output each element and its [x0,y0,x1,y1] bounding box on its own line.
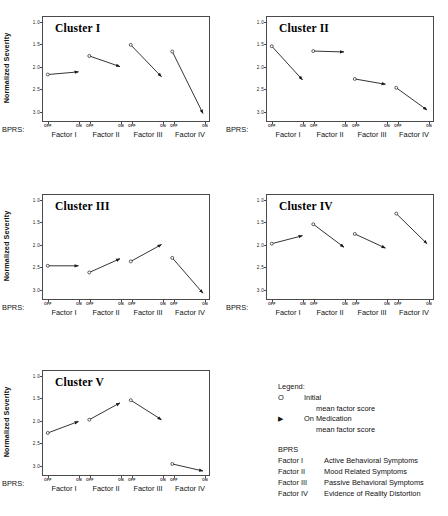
y-axis-tick [264,222,267,223]
factor-trajectory [353,232,385,248]
x-axis-condition-label: OFF [170,124,178,128]
factor-trajectory [129,245,161,263]
x-axis-condition-label: OFF [86,302,94,306]
x-axis-condition-label: OFF [310,302,318,306]
initial-score-marker [171,462,174,465]
y-axis-tick-label: 1.5 [33,220,40,225]
y-axis-tick [264,112,267,113]
x-axis-condition-label: OFF [128,302,136,306]
initial-score-marker [46,431,49,434]
x-axis-condition-label: ON [76,478,82,482]
y-axis-tick [40,22,43,23]
y-axis-tick-label: 2.5 [33,87,40,92]
x-axis-condition-label: ON [160,124,166,128]
x-axis-condition-label: OFF [86,124,94,128]
y-axis-tick [40,421,43,422]
trajectory-line [396,88,427,110]
trajectory-line [48,421,79,433]
initial-score-marker [46,73,49,76]
y-axis-tick [264,89,267,90]
y-axis-tick [40,290,43,291]
x-axis-condition-label: ON [300,302,306,306]
x-axis-factor-label: Factor I [275,130,300,139]
factor-trajectory [46,264,78,267]
x-axis-factor-label: Factor III [133,308,162,317]
data-segments [43,195,209,299]
x-axis-condition-label: OFF [44,302,52,306]
x-axis-condition-label: ON [384,302,390,306]
x-axis-factor-label: Factor IV [399,130,429,139]
bprs-item: Factor II Mood Related Symptoms [278,466,448,477]
factor-trajectory [395,86,427,110]
plot-area: Cluster II 3.02.52.01.51.0OFFONFactor IO… [266,16,434,122]
x-axis-condition-label: OFF [394,124,402,128]
x-axis-condition-label: ON [384,124,390,128]
x-axis-factor-label: Factor III [133,130,162,139]
plot-area: Cluster I 3.02.52.01.51.0OFFONFactor IOF… [42,16,210,122]
trajectory-line [355,234,386,248]
y-axis-tick-label: 1.5 [257,220,264,225]
y-axis-tick [40,89,43,90]
y-axis-tick-label: 1.0 [257,197,264,202]
y-axis-tick [40,44,43,45]
factor-trajectory [46,421,78,434]
x-axis-condition-label: OFF [394,302,402,306]
data-segments [43,371,209,475]
initial-score-marker [395,212,398,215]
x-axis-condition-label: ON [342,302,348,306]
y-axis-tick-label: 1.5 [33,42,40,47]
x-axis-condition-label: OFF [44,124,52,128]
initial-score-marker [129,43,132,46]
x-axis-factor-label: Factor IV [175,130,205,139]
y-axis-tick-label: 2.5 [33,265,40,270]
x-axis-factor-label: Factor IV [175,308,205,317]
initial-score-marker [171,256,174,259]
x-axis-condition-label: ON [300,124,306,128]
legend-entry-initial: O Initial [278,393,448,404]
x-axis-factor-label: Factor III [357,130,386,139]
data-segments [43,17,209,121]
factor-trajectory [353,77,385,84]
x-axis-condition-label: OFF [44,478,52,482]
x-axis-condition-label: ON [202,124,208,128]
factor-trajectory [171,462,203,471]
panel-cluster-3: Normalized Severity Cluster III 3.02.52.… [0,180,224,352]
trajectory-line [272,46,303,80]
y-axis-tick [40,443,43,444]
x-axis-condition-label: ON [202,478,208,482]
x-axis-factor-label: Factor II [92,308,119,317]
y-axis-tick-label: 1.5 [33,396,40,401]
y-axis-tick-label: 3.0 [257,287,264,292]
y-axis-tick-label: 1.0 [33,19,40,24]
plot-area: Cluster III 3.02.52.01.51.0OFFONFactor I… [42,194,210,300]
trajectory-line [172,464,203,471]
x-axis-condition-label: OFF [128,478,136,482]
y-axis-tick-label: 3.0 [33,109,40,114]
filled-arrow-marker-icon: ▶ [278,414,304,425]
trajectory-line [172,52,203,114]
factor-trajectory [171,50,203,113]
initial-score-marker [353,77,356,80]
x-axis-condition-label: ON [76,124,82,128]
y-axis-tick [40,398,43,399]
legend-title: Legend: [278,382,448,391]
trajectory-line [272,236,303,244]
y-axis-tick [40,466,43,467]
y-axis-tick [40,267,43,268]
trajectory-line [48,72,79,75]
x-axis-condition-label: OFF [170,478,178,482]
factor-trajectory [270,45,302,80]
initial-score-marker [88,418,91,421]
y-axis-tick-label: 2.0 [33,64,40,69]
x-axis-factor-label: Factor I [51,130,76,139]
trajectory-line [131,45,162,77]
y-axis-tick [40,222,43,223]
trajectory-line [396,214,427,244]
bprs-item: Factor I Active Behavioral Symptoms [278,455,448,466]
factor-trajectory [395,212,427,244]
initial-score-marker [312,50,315,53]
open-circle-marker-icon: O [278,393,304,404]
factor-trajectory [88,54,120,66]
x-axis-prefix-label: BPRS: [2,479,24,488]
x-axis-condition-label: ON [160,478,166,482]
